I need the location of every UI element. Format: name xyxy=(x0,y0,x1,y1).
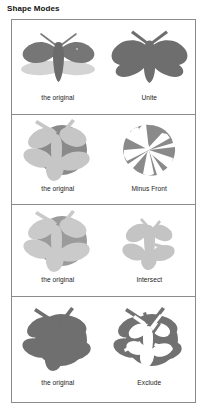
panel-unite-result-cell xyxy=(104,24,196,92)
panel-intersect-artwork xyxy=(12,205,195,276)
panel-minus-front-artwork xyxy=(12,115,195,185)
panel-minus-front-labels: the original Minus Front xyxy=(12,185,195,205)
panel-exclude-labels: the original Exclude xyxy=(12,379,195,402)
label-unite-result: Unite xyxy=(104,94,196,102)
label-intersect-original: the original xyxy=(12,276,104,284)
label-exclude-original: the original xyxy=(12,379,104,387)
panel-minus-front: the original Minus Front xyxy=(12,115,195,205)
label-minus-front-original: the original xyxy=(12,185,104,193)
moth-united-silhouette-illustration xyxy=(106,24,192,92)
panel-exclude-result-cell xyxy=(104,300,196,376)
solid-dark-merged-blob-illustration xyxy=(14,300,102,376)
label-exclude-result: Exclude xyxy=(104,379,196,387)
panel-unite-labels: the original Unite xyxy=(12,92,195,111)
pinwheel-minus-front-illustration xyxy=(106,116,192,184)
panel-unite: the original Unite xyxy=(12,20,195,115)
panel-unite-artwork xyxy=(12,20,195,92)
panel-minus-front-original-cell xyxy=(12,116,104,184)
pinwheel-exclude-knockout-illustration xyxy=(105,300,193,376)
circle-behind-light-pinwheel-illustration xyxy=(14,207,102,275)
panel-intersect: the original Intersect xyxy=(12,205,195,297)
panel-unite-original-cell xyxy=(12,24,104,92)
pinwheel-intersect-illustration xyxy=(106,207,192,275)
page-title: Shape Modes xyxy=(7,4,60,14)
label-unite-original: the original xyxy=(12,94,104,102)
figure-page: Shape Modes xyxy=(0,0,213,416)
panel-exclude: the original Exclude xyxy=(12,297,195,402)
label-intersect-result: Intersect xyxy=(104,276,196,284)
panel-intersect-labels: the original Intersect xyxy=(12,276,195,297)
moth-two-tone-illustration xyxy=(15,24,101,92)
circle-behind-light-pinwheel-illustration xyxy=(14,116,102,184)
label-minus-front-result: Minus Front xyxy=(104,185,196,193)
panel-exclude-artwork xyxy=(12,297,195,379)
panel-exclude-original-cell xyxy=(12,300,104,376)
shape-modes-figure: the original Unite xyxy=(11,19,196,403)
panel-minus-front-result-cell xyxy=(104,116,196,184)
panel-intersect-original-cell xyxy=(12,207,104,275)
panel-intersect-result-cell xyxy=(104,207,196,275)
